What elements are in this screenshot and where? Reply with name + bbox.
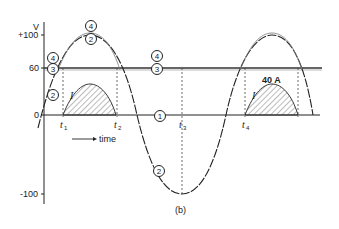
svg-text:3: 3 xyxy=(155,65,160,74)
marker-4-top: 4 xyxy=(86,21,97,32)
svg-text:3: 3 xyxy=(51,65,56,74)
time-label-t2: t 2 xyxy=(114,119,122,131)
y-tick-100: +100 xyxy=(18,30,38,40)
y-tick-60: 60 xyxy=(29,63,39,73)
svg-text:4: 4 xyxy=(89,22,94,31)
svg-text:t: t xyxy=(114,119,117,130)
svg-text:4: 4 xyxy=(246,125,250,131)
svg-text:t: t xyxy=(60,119,63,130)
svg-text:time: time xyxy=(99,134,116,144)
marker-4-left: 4 xyxy=(48,53,59,64)
svg-text:3: 3 xyxy=(183,125,187,131)
svg-text:2: 2 xyxy=(157,167,162,176)
time-arrow: time xyxy=(72,134,116,144)
current-label-1: I xyxy=(69,90,74,101)
y-tick-neg100: -100 xyxy=(20,189,38,199)
voltage-current-diagram: V +100 60 0 -100 4 2 4 3 2 xyxy=(0,0,339,229)
svg-text:2: 2 xyxy=(89,35,94,44)
svg-text:1: 1 xyxy=(64,125,68,131)
svg-text:t: t xyxy=(242,119,245,130)
current-label-2: I xyxy=(251,90,256,101)
time-label-t1: t 1 xyxy=(60,119,68,131)
svg-text:1: 1 xyxy=(158,112,163,121)
time-label-t4: t 4 xyxy=(242,119,250,131)
current-peak-label: 40 A xyxy=(262,75,281,85)
svg-text:2: 2 xyxy=(51,91,56,100)
y-tick-0: 0 xyxy=(34,110,39,120)
svg-text:2: 2 xyxy=(118,125,122,131)
marker-4-mid: 4 xyxy=(152,51,163,62)
time-label-t3: t 3 xyxy=(179,119,187,131)
marker-1: 1 xyxy=(155,111,166,122)
svg-text:4: 4 xyxy=(155,52,160,61)
marker-3-mid: 3 xyxy=(152,64,163,75)
marker-2-top: 2 xyxy=(86,34,97,45)
svg-text:t: t xyxy=(179,119,182,130)
marker-3-left: 3 xyxy=(48,64,59,75)
figure-caption: (b) xyxy=(175,205,186,215)
marker-2-bottom: 2 xyxy=(154,166,165,177)
svg-text:4: 4 xyxy=(51,54,56,63)
marker-2-left: 2 xyxy=(48,90,59,101)
